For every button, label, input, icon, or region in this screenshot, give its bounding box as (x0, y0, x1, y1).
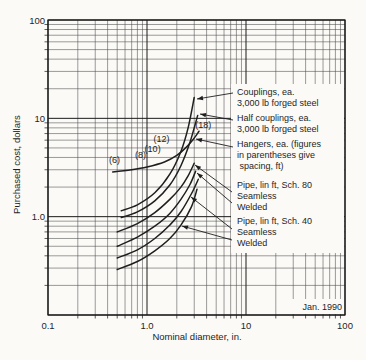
legend-line: in parentheses give (237, 150, 321, 161)
legend-entry-hangers: Hangers, ea. (figuresin parentheses give… (237, 139, 321, 172)
x-axis-title: Nominal diameter, in. (97, 331, 297, 342)
legend-line: Welded (237, 238, 312, 249)
leader-arrow-pipe_sch80-0-line (195, 165, 232, 192)
hanger-spacing-label: (6) (109, 155, 120, 165)
legend-line: Hangers, ea. (figures (237, 139, 321, 150)
legend-entry-pipe_sch80: Pipe, lin ft, Sch. 80SeamlessWelded (237, 180, 312, 213)
y-tick-label: 10 (34, 113, 45, 124)
y-axis-title: Purchased cost, dollars (11, 65, 22, 265)
legend-line: Welded (237, 202, 312, 213)
hanger-spacing-label: (10) (145, 144, 161, 154)
legend-line: Pipe, lin ft, Sch. 80 (237, 180, 312, 191)
x-tick-label: 10 (241, 320, 252, 331)
legend-line: Couplings, ea. (237, 87, 319, 98)
leader-arrow-pipe_sch40-0-line (191, 197, 232, 229)
x-tick-label: 0.1 (41, 320, 54, 331)
leader-arrow-pipe_sch40-1-head (182, 225, 188, 229)
x-tick-label: 100 (337, 320, 353, 331)
y-tick-label: 1.0 (32, 211, 45, 222)
legend-line: Seamless (237, 191, 312, 202)
figure: Purchased cost, dollars Nominal diameter… (0, 0, 366, 360)
legend-line: 3,000 lb forged steel (237, 124, 319, 135)
legend-line: 3,000 lb forged steel (237, 98, 319, 109)
leader-arrow-couplings-head (197, 96, 203, 100)
legend-line: Pipe, lin ft, Sch. 40 (237, 216, 312, 227)
curve-pipe_sch40_welded (117, 189, 197, 269)
leader-arrow-half_couplings-head (200, 113, 206, 117)
legend-entry-couplings: Couplings, ea.3,000 lb forged steel (237, 87, 319, 109)
legend-entry-half_couplings: Half couplings, ea.3,000 lb forged steel (237, 113, 319, 135)
legend-entry-pipe_sch40: Pipe, lin ft, Sch. 40SeamlessWelded (237, 216, 312, 249)
x-tick-label: 1.0 (140, 320, 153, 331)
legend-line: Half couplings, ea. (237, 113, 319, 124)
curve-couplings (121, 98, 194, 211)
y-tick-label: 100 (29, 15, 45, 26)
hanger-spacing-label: (18) (195, 120, 211, 130)
legend-line: spacing, ft) (237, 161, 321, 172)
date-annotation: Jan. 1990 (282, 300, 344, 314)
leader-arrow-pipe_sch40-1-line (182, 226, 232, 240)
legend-line: Seamless (237, 227, 312, 238)
hanger-spacing-label: (12) (153, 134, 169, 144)
